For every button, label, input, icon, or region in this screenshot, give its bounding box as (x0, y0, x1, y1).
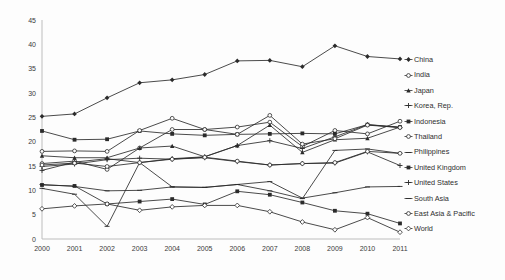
y-tick-label: 10 (28, 187, 36, 194)
data-point-marker (268, 132, 272, 136)
legend-marker-cross-icon (404, 101, 413, 110)
legend-item-south-asia[interactable]: South Asia (404, 191, 504, 206)
data-point-marker (406, 57, 411, 62)
data-point-marker (333, 209, 337, 213)
legend-label: United Kingdom (414, 164, 466, 171)
series-world (40, 202, 403, 235)
series-line (42, 121, 400, 169)
legend-marker-circle-open-icon (404, 209, 413, 218)
data-point-marker (137, 208, 142, 213)
x-tick-label: 2009 (327, 245, 343, 252)
data-point-marker (73, 149, 77, 153)
data-point-marker (235, 189, 239, 193)
legend-item-china[interactable]: China (404, 52, 504, 67)
data-point-marker (40, 163, 44, 167)
legend-item-japan[interactable]: Japan (404, 83, 504, 98)
x-tick-label: 2007 (262, 245, 278, 252)
x-tick-label: 2011 (392, 245, 407, 252)
series-line (42, 151, 400, 166)
legend-label: Japan (414, 87, 434, 94)
legend-item-united-kingdom[interactable]: United Kingdom (404, 160, 504, 175)
legend-marker-circle-open-icon (404, 132, 413, 141)
legend-marker-square-icon (404, 163, 413, 172)
y-tick-label: 0 (32, 236, 36, 243)
legend-label: East Asia & Pacific (414, 210, 475, 217)
data-point-marker (170, 204, 175, 209)
data-point-marker (138, 161, 142, 165)
y-tick-label: 20 (28, 138, 36, 145)
data-point-marker (365, 54, 370, 59)
legend-label: Thailand (414, 133, 442, 140)
data-point-marker (267, 138, 272, 143)
legend-label: World (414, 225, 433, 232)
data-point-marker (203, 128, 207, 132)
data-point-marker (398, 126, 402, 130)
x-tick-label: 2004 (164, 245, 180, 252)
y-tick-label: 25 (28, 114, 36, 121)
data-point-marker (73, 138, 77, 142)
data-point-marker (407, 119, 411, 123)
legend-item-east-asia-pacific[interactable]: East Asia & Pacific (404, 206, 504, 221)
data-point-marker (300, 64, 305, 69)
y-tick-label: 30 (28, 90, 36, 97)
legend-label: Philippines (414, 148, 449, 155)
data-point-marker (105, 137, 109, 141)
data-point-marker (170, 132, 174, 136)
legend-label: South Asia (414, 195, 449, 202)
data-point-marker (300, 201, 304, 205)
x-tick-label: 2006 (229, 245, 245, 252)
data-point-marker (170, 157, 174, 161)
legend-item-thailand[interactable]: Thailand (404, 129, 504, 144)
data-point-marker (137, 80, 142, 85)
legend-item-korea-rep[interactable]: Korea, Rep. (404, 98, 504, 113)
legend-item-philippines[interactable]: Philippines (404, 144, 504, 159)
data-point-marker (40, 114, 45, 119)
data-point-marker (170, 116, 174, 120)
data-point-marker (300, 131, 304, 135)
data-point-marker (73, 161, 77, 165)
data-point-marker (300, 162, 304, 166)
data-point-marker (333, 132, 337, 136)
series-line (42, 204, 400, 232)
legend-item-indonesia[interactable]: Indonesia (404, 114, 504, 129)
x-tick-label: 2002 (99, 245, 115, 252)
data-point-marker (138, 129, 142, 133)
data-point-marker (398, 151, 402, 155)
legend-label: Korea, Rep. (414, 102, 453, 109)
chart-legend: ChinaIndiaJapanKorea, Rep.IndonesiaThail… (404, 52, 504, 237)
chart-container: 051015202530354045 200020012002200320042… (0, 0, 505, 280)
data-point-marker (333, 161, 337, 165)
data-point-marker (268, 113, 272, 117)
data-point-marker (407, 212, 411, 216)
legend-label: United States (414, 179, 458, 186)
y-tick-label: 15 (28, 163, 36, 170)
data-point-marker (366, 150, 370, 154)
data-point-marker (105, 95, 110, 100)
data-point-marker (268, 209, 273, 214)
data-point-marker (398, 57, 403, 62)
legend-marker-dash-icon (404, 194, 413, 203)
data-point-marker (398, 222, 402, 226)
series-line (42, 149, 400, 199)
legend-item-united-states[interactable]: United States (404, 175, 504, 190)
data-point-marker (407, 73, 411, 77)
legend-label: India (414, 71, 430, 78)
series-philippines (40, 163, 403, 227)
data-point-marker (268, 163, 272, 167)
data-point-marker (406, 227, 411, 232)
data-point-marker (268, 58, 273, 63)
data-point-marker (300, 142, 304, 146)
data-point-marker (333, 43, 338, 48)
legend-marker-diamond-open-icon (404, 224, 413, 233)
legend-item-world[interactable]: World (404, 221, 504, 236)
y-tick-label: 40 (28, 41, 36, 48)
data-point-marker (366, 123, 370, 127)
data-point-marker (333, 129, 337, 133)
data-point-marker (203, 133, 207, 137)
data-point-marker (170, 128, 174, 132)
legend-marker-plus-icon (404, 178, 413, 187)
legend-item-india[interactable]: India (404, 67, 504, 82)
data-point-marker (170, 77, 175, 82)
series-line (42, 163, 400, 227)
series-china (40, 43, 403, 118)
